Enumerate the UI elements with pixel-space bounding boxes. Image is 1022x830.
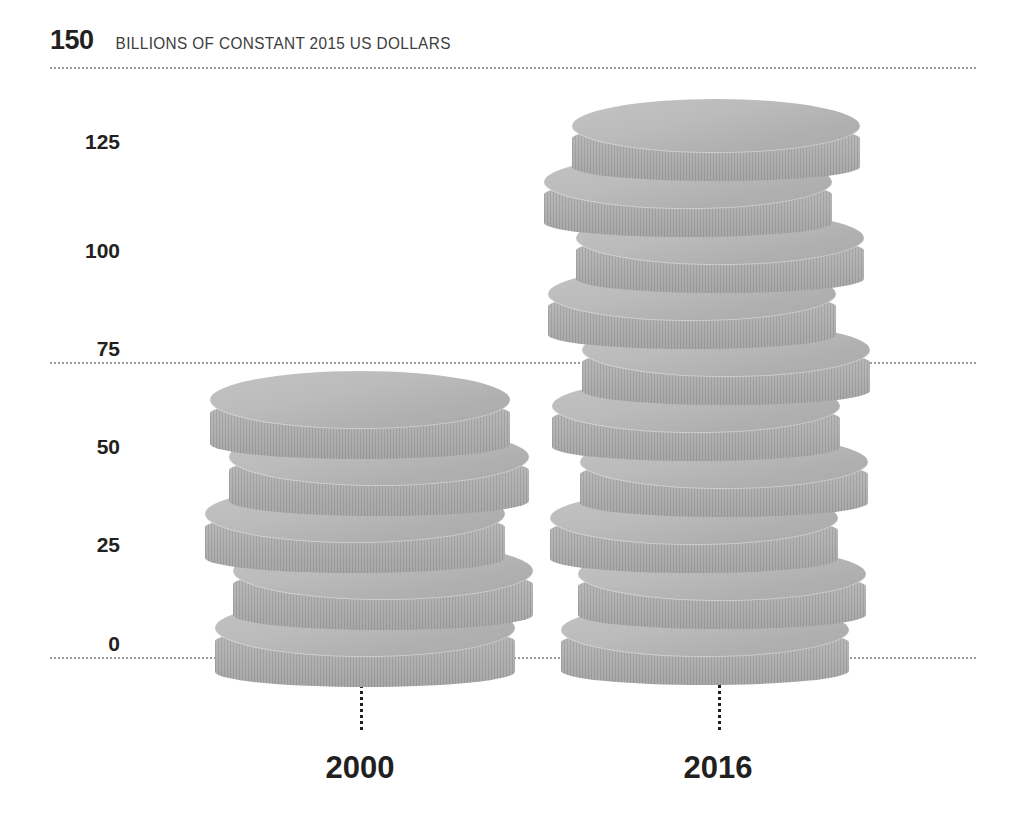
coin: [572, 99, 860, 181]
coin: [210, 371, 510, 459]
coin-face: [572, 99, 860, 153]
coin-face: [210, 371, 510, 429]
x-axis-label-2016: 2016: [618, 752, 818, 783]
x-axis-label-2000: 2000: [260, 752, 460, 783]
chart-canvas: 150 BILLIONS OF CONSTANT 2015 US DOLLARS…: [0, 0, 1022, 830]
coin-stack-2016: [0, 0, 1022, 830]
